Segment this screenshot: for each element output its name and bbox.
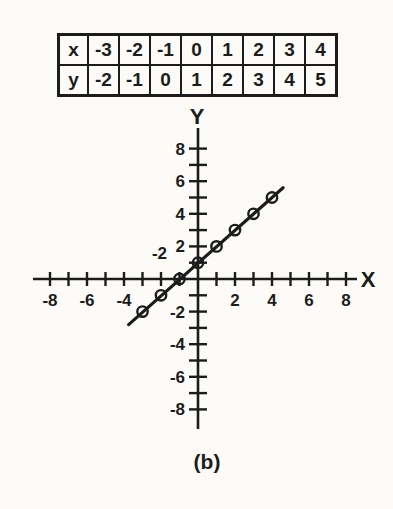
x-tick-label: -8 bbox=[42, 291, 57, 310]
stray-minus2-label: -2 bbox=[152, 244, 167, 263]
y-tick-label: -2 bbox=[170, 303, 185, 322]
y-tick-label: -6 bbox=[170, 368, 185, 387]
x-axis-label: X bbox=[361, 267, 376, 292]
y-tick-label: -8 bbox=[170, 400, 185, 419]
y-tick-label: 6 bbox=[176, 172, 185, 191]
scanned-figure-page: x-3-2-101234y-2-1012345 -8-6-424688642-2… bbox=[0, 0, 393, 509]
graph-svg: -8-6-424688642-2-4-6-8-2XY bbox=[0, 0, 393, 509]
x-tick-label: 2 bbox=[230, 291, 239, 310]
y-tick-label: 2 bbox=[176, 237, 185, 256]
x-tick-label: -4 bbox=[116, 291, 132, 310]
x-tick-label: 4 bbox=[267, 291, 277, 310]
y-tick-label: 4 bbox=[176, 205, 186, 224]
figure-caption: (b) bbox=[162, 450, 252, 474]
x-tick-label: -6 bbox=[79, 291, 94, 310]
y-tick-label: -4 bbox=[170, 335, 186, 354]
y-tick-label: 8 bbox=[176, 140, 185, 159]
x-tick-label: 6 bbox=[304, 291, 313, 310]
x-tick-label: 8 bbox=[341, 291, 350, 310]
y-axis-label: Y bbox=[190, 104, 205, 129]
